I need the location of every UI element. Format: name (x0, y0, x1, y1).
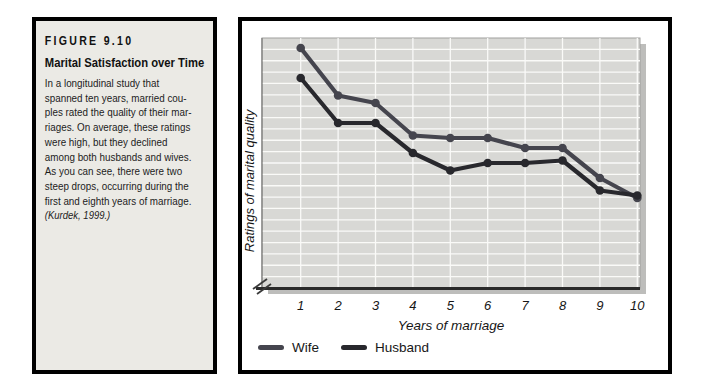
data-point-husband (409, 149, 418, 158)
data-point-wife (521, 144, 530, 153)
figure-label: FIGURE 9.10 (45, 34, 187, 48)
x-tick-label: 5 (447, 298, 455, 313)
caption-line: were high, but they declined (45, 135, 187, 150)
caption-line: In a longitudinal study that (45, 76, 187, 91)
x-tick-label: 6 (484, 298, 492, 313)
data-point-husband (633, 191, 642, 200)
figure-caption-body: In a longitudinal study thatspanned ten … (45, 76, 187, 223)
figure-caption-panel: FIGURE 9.10 Marital Satisfaction over Ti… (32, 17, 217, 374)
x-tick-label: 9 (596, 298, 603, 313)
figure-citation: (Kurdek, 1999.) (45, 208, 187, 223)
caption-line: ples rated the quality of their mar- (45, 105, 187, 120)
data-point-wife (596, 174, 605, 183)
data-point-wife (409, 131, 418, 140)
x-tick-label: 4 (409, 298, 416, 313)
data-point-wife (334, 91, 343, 100)
x-tick-label: 7 (521, 298, 529, 313)
textbook-figure: { "figure": { "label": "FIGURE 9.10", "t… (0, 0, 705, 390)
data-point-husband (521, 159, 530, 168)
legend: WifeHusband (258, 340, 429, 355)
chart-box: Ratings of marital quality 12345678910 Y… (238, 17, 672, 374)
data-point-wife (371, 99, 380, 108)
data-point-wife (296, 44, 305, 53)
data-point-wife (483, 134, 492, 143)
caption-line: among both husbands and wives. (45, 150, 187, 165)
figure-title: Marital Satisfaction over Time (45, 55, 187, 70)
figure-caption-content: FIGURE 9.10 Marital Satisfaction over Ti… (36, 21, 192, 223)
legend-swatch-husband (341, 345, 367, 350)
caption-line: As you can see, there were two (45, 164, 187, 179)
legend-label: Wife (292, 340, 319, 355)
legend-item-wife: Wife (258, 340, 319, 355)
data-point-husband (371, 119, 380, 128)
legend-swatch-wife (258, 345, 284, 350)
legend-item-husband: Husband (341, 340, 429, 355)
caption-line: riages. On average, these ratings (45, 120, 187, 135)
data-point-husband (446, 166, 455, 175)
data-point-wife (446, 134, 455, 143)
data-point-husband (296, 74, 305, 83)
data-point-wife (558, 144, 567, 153)
data-point-husband (558, 156, 567, 165)
caption-line: steep drops, occurring during the (45, 179, 187, 194)
data-point-husband (334, 119, 343, 128)
x-tick-label: 10 (630, 298, 645, 313)
chart-content: Ratings of marital quality 12345678910 Y… (242, 21, 668, 370)
data-point-husband (596, 186, 605, 195)
x-tick-label: 3 (372, 298, 380, 313)
chart-svg: 12345678910 (242, 21, 668, 317)
x-tick-label: 2 (333, 298, 342, 313)
data-point-husband (483, 159, 492, 168)
x-tick-label: 1 (297, 298, 304, 313)
x-tick-label: 8 (559, 298, 567, 313)
x-axis-label: Years of marriage (262, 318, 640, 333)
legend-label: Husband (375, 340, 429, 355)
caption-line: first and eighth years of marriage. (45, 194, 187, 209)
caption-line: spanned ten years, married cou- (45, 91, 187, 106)
